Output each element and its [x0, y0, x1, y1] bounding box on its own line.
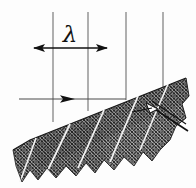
figure-canvas: λ: [0, 0, 196, 188]
lambda-symbol: λ: [62, 21, 78, 47]
wave-mesh-figure: λ: [0, 0, 196, 188]
